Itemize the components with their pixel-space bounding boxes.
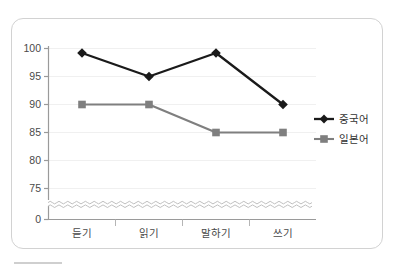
y-tick-marks bbox=[44, 49, 49, 220]
line-chart: 100 95 90 85 80 75 0 듣기 읽기 말하기 쓰기 bbox=[0, 0, 396, 272]
legend-label-chinese: 중국어 bbox=[339, 113, 369, 125]
axis-break-squiggle bbox=[48, 201, 312, 207]
series-line-chinese bbox=[77, 48, 288, 109]
y-tick-label-80: 80 bbox=[29, 154, 41, 166]
legend-marker-chinese-diamond-icon bbox=[320, 115, 329, 124]
legend-marker-japanese-square-icon bbox=[320, 135, 328, 143]
axis-break-wave-bottom bbox=[48, 205, 312, 208]
chart-legend: 중국어 일본어 bbox=[314, 113, 369, 145]
y-tick-label-0: 0 bbox=[35, 213, 41, 225]
legend-label-japanese: 일본어 bbox=[339, 133, 369, 145]
y-tick-label-95: 95 bbox=[29, 70, 41, 82]
series-1-polyline bbox=[82, 53, 283, 105]
chart-svg: 100 95 90 85 80 75 0 듣기 읽기 말하기 쓰기 bbox=[0, 0, 396, 272]
x-axis-label-3: 쓰기 bbox=[273, 227, 293, 239]
x-axis-label-2: 말하기 bbox=[201, 227, 231, 239]
series-2-marker-1 bbox=[145, 101, 153, 109]
y-tick-label-75: 75 bbox=[29, 182, 41, 194]
series-line-japanese bbox=[78, 101, 287, 137]
series-2-marker-2 bbox=[212, 129, 220, 137]
legend-entry-chinese[interactable]: 중국어 bbox=[314, 113, 369, 125]
y-tick-label-100: 100 bbox=[23, 42, 41, 54]
series-1-marker-0 bbox=[77, 48, 87, 58]
y-tick-label-85: 85 bbox=[29, 126, 41, 138]
x-tick-marks bbox=[116, 220, 250, 227]
page-footer-rule bbox=[14, 262, 62, 264]
y-tick-label-90: 90 bbox=[29, 98, 41, 110]
series-2-marker-3 bbox=[279, 129, 287, 137]
series-1-marker-1 bbox=[144, 72, 154, 82]
legend-entry-japanese[interactable]: 일본어 bbox=[314, 133, 369, 145]
series-2-polyline bbox=[82, 105, 283, 133]
x-axis-label-0: 듣기 bbox=[72, 227, 92, 239]
axis-break-wave-top bbox=[48, 201, 312, 204]
x-axis-label-1: 읽기 bbox=[139, 227, 159, 239]
series-2-marker-0 bbox=[78, 101, 86, 109]
